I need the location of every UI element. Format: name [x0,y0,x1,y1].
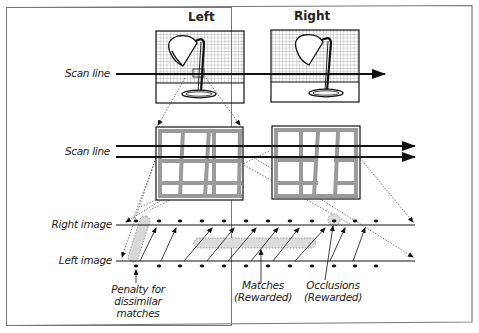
right-image-panel [271,30,359,102]
penalty-label: Penalty for dissimilar matches [105,283,171,319]
window-zoom-right [272,126,360,199]
occlusions-label: Occlusions (Rewarded) [297,279,369,303]
label-pointers [136,226,333,283]
scan-line-mid-label: Scan line [40,145,110,157]
penalty-highlight [127,215,151,264]
right-image-pixels [134,220,379,223]
matches-highlight [194,238,316,248]
left-image-pixels [134,265,379,268]
right-image-label: Right image [30,218,112,230]
right-panel-title: Right [294,9,330,23]
left-image-label: Left image [30,254,112,266]
window-zoom-left [156,127,243,200]
matches-label: Matches (Rewarded) [228,279,298,303]
scan-line-top-label: Scan line [40,67,110,79]
left-panel-title: Left [188,10,215,24]
left-image-panel [156,31,244,103]
